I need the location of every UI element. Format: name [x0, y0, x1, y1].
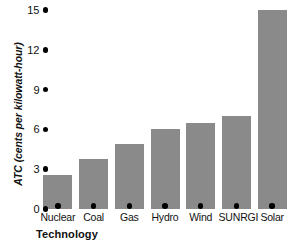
bar-sunrgi	[222, 116, 251, 209]
bar-coal	[79, 159, 108, 209]
x-tick-gas: Gas	[111, 203, 147, 223]
bar-solar	[258, 10, 287, 209]
plot-area	[40, 10, 290, 209]
bar-gas	[115, 144, 144, 209]
x-tick-dot-icon	[91, 203, 97, 209]
bar-hydro	[151, 129, 180, 209]
y-tick-label: 3	[33, 163, 42, 175]
x-tick-dot-icon	[198, 203, 204, 209]
y-tick-0: 0	[14, 203, 48, 215]
y-tick-label: 0	[33, 203, 42, 215]
y-tick-15: 15	[14, 4, 48, 16]
y-tick-3: 3	[14, 163, 48, 175]
y-tick-dot-icon	[43, 206, 49, 212]
x-tick-dot-icon	[234, 203, 240, 209]
x-tick-label: Gas	[111, 211, 147, 223]
y-tick-dot-icon	[43, 127, 49, 133]
bar-chart: ATC (cents per kilowatt-hour) NuclearCoa…	[0, 0, 290, 247]
x-tick-hydro: Hydro	[147, 203, 183, 223]
x-tick-wind: Wind	[183, 203, 219, 223]
x-tick-label: Wind	[183, 211, 219, 223]
x-tick-label: SUNRGI	[219, 211, 255, 223]
x-tick-solar: Solar	[254, 203, 290, 223]
y-tick-12: 12	[14, 44, 48, 56]
x-tick-coal: Coal	[76, 203, 112, 223]
y-tick-dot-icon	[43, 166, 49, 172]
bar-wind	[186, 123, 215, 209]
y-tick-6: 6	[14, 123, 48, 135]
x-tick-label: Hydro	[147, 211, 183, 223]
x-tick-dot-icon	[55, 203, 61, 209]
x-tick-label: Solar	[254, 211, 290, 223]
x-tick-dot-icon	[269, 203, 275, 209]
x-tick-dot-icon	[162, 203, 168, 209]
x-axis: NuclearCoalGasHydroWindSUNRGISolar	[40, 203, 290, 229]
y-tick-9: 9	[14, 84, 48, 96]
y-tick-label: 15	[27, 4, 42, 16]
y-tick-label: 9	[33, 84, 42, 96]
x-tick-dot-icon	[127, 203, 133, 209]
x-axis-title: Technology	[36, 228, 98, 240]
x-tick-label: Coal	[76, 211, 112, 223]
y-tick-dot-icon	[43, 87, 49, 93]
x-tick-sunrgi: SUNRGI	[219, 203, 255, 223]
y-tick-label: 6	[33, 123, 42, 135]
y-tick-label: 12	[27, 44, 42, 56]
y-tick-dot-icon	[43, 47, 49, 53]
y-tick-dot-icon	[43, 7, 49, 13]
